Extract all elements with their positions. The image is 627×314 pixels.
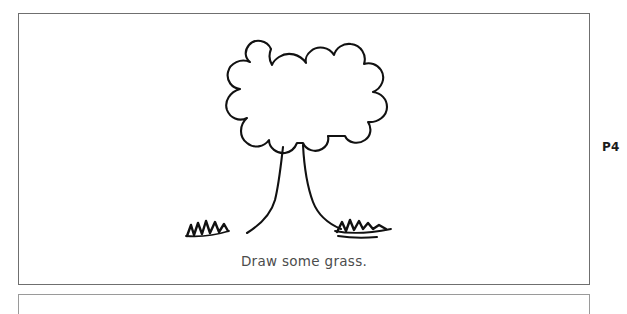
tree-trunk-right-icon: [303, 145, 341, 229]
worksheet-caption: Draw some grass.: [241, 253, 367, 269]
worksheet-panel: Draw some grass.: [18, 13, 590, 285]
grass-tuft-right-icon: [337, 220, 386, 232]
drawing-area[interactable]: [19, 14, 591, 246]
caption-row: Draw some grass.: [19, 252, 589, 270]
next-worksheet-panel-edge: [18, 294, 590, 314]
page-label: P4: [602, 140, 620, 154]
ground-line-right-under-icon: [338, 236, 377, 238]
tree-trunk-left-icon: [247, 147, 283, 233]
tree-line-drawing: [19, 14, 591, 246]
tree-canopy-icon: [226, 41, 387, 153]
